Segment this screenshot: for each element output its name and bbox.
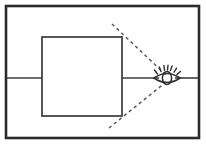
diagram-canvas — [0, 0, 206, 145]
lower-sight-line — [109, 82, 166, 128]
square-object — [42, 37, 122, 116]
perspective-viewing-figure — [0, 0, 206, 145]
eye-symbol — [154, 65, 180, 84]
upper-sight-line — [112, 24, 166, 75]
